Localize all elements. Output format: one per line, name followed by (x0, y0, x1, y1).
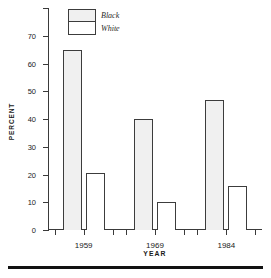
x-tick (84, 230, 85, 235)
legend-label-white: White (101, 24, 120, 33)
x-tick (184, 230, 185, 235)
plot-area: 010203040506070 195919691984 (48, 8, 262, 230)
y-tick-label: 50 (28, 87, 36, 96)
x-tick (113, 230, 114, 235)
x-tick (126, 230, 127, 235)
legend-swatch-black (69, 10, 95, 22)
bar-black-1959 (63, 50, 82, 230)
x-tick (226, 230, 227, 235)
y-tick-label: 60 (28, 59, 36, 68)
x-category-label-1969: 1969 (146, 241, 164, 250)
y-axis-title: PERCENT (8, 92, 15, 152)
x-category-label-1959: 1959 (75, 241, 93, 250)
y-tick-label: 70 (28, 31, 36, 40)
legend-label-black: Black (101, 11, 119, 20)
y-tick-70: 70 (43, 36, 49, 37)
y-tick-10: 10 (43, 202, 49, 203)
y-tick-label: 10 (28, 198, 36, 207)
y-tick-20: 20 (43, 175, 49, 176)
y-tick-0: 0 (43, 230, 49, 231)
y-tick-top-unlabeled (43, 8, 49, 9)
bar-white-1959 (86, 173, 105, 230)
x-tick (197, 230, 198, 235)
legend-box (68, 9, 96, 35)
x-category-label-1984: 1984 (217, 241, 235, 250)
x-axis-title: YEAR (48, 250, 262, 257)
bar-white-1984 (228, 186, 247, 230)
y-tick-label: 0 (32, 226, 36, 235)
y-tick-50: 50 (43, 91, 49, 92)
x-tick (255, 230, 256, 235)
bar-white-1969 (157, 202, 176, 230)
bottom-divider-rule (8, 266, 263, 269)
y-tick-60: 60 (43, 64, 49, 65)
bar-chart-figure: PERCENT 010203040506070 195919691984 YEA… (0, 0, 271, 278)
y-tick-40: 40 (43, 119, 49, 120)
y-tick-label: 40 (28, 115, 36, 124)
y-tick-30: 30 (43, 147, 49, 148)
y-tick-label: 20 (28, 170, 36, 179)
x-tick (55, 230, 56, 235)
y-tick-label: 30 (28, 142, 36, 151)
x-tick (155, 230, 156, 235)
bar-black-1984 (205, 100, 224, 230)
bar-black-1969 (134, 119, 153, 230)
legend-swatch-white (69, 22, 95, 34)
